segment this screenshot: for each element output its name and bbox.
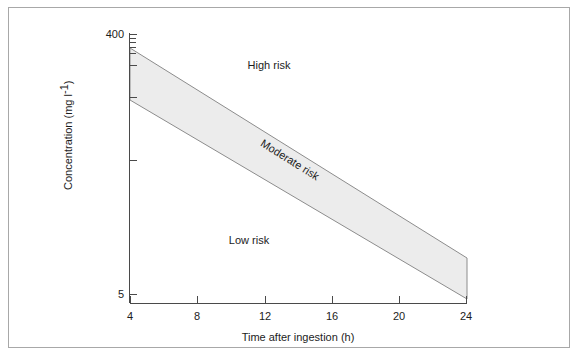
x-tick-label-8: 8 (194, 310, 200, 322)
x-tick-label-20: 20 (393, 310, 405, 322)
y-axis-title-main: Concentration (mg l (62, 94, 74, 190)
x-tick-label-16: 16 (326, 310, 338, 322)
y-axis-title: Concentration (mg l-1) (58, 81, 74, 190)
y-tick-label-5: 5 (118, 288, 124, 300)
x-tick-label-12: 12 (259, 310, 271, 322)
x-axis-title: Time after ingestion (h) (242, 331, 355, 343)
y-axis-title-group: Concentration (mg l-1) (58, 81, 74, 190)
x-tick-label-24: 24 (460, 310, 472, 322)
x-axis-ticks (131, 296, 467, 304)
figure-root: 400 5 Concentration (mg l-1) 4 8 12 16 2… (0, 0, 579, 361)
moderate-risk-band (130, 48, 467, 299)
annotation-high-risk: High risk (248, 59, 291, 71)
y-axis-title-suffix: ) (62, 81, 74, 85)
risk-nomogram-chart: 400 5 Concentration (mg l-1) 4 8 12 16 2… (0, 0, 579, 361)
annotation-low-risk: Low risk (229, 234, 270, 246)
y-tick-label-400: 400 (106, 28, 124, 40)
x-tick-label-4: 4 (127, 310, 133, 322)
y-axis-title-superscript: -1 (58, 84, 70, 94)
